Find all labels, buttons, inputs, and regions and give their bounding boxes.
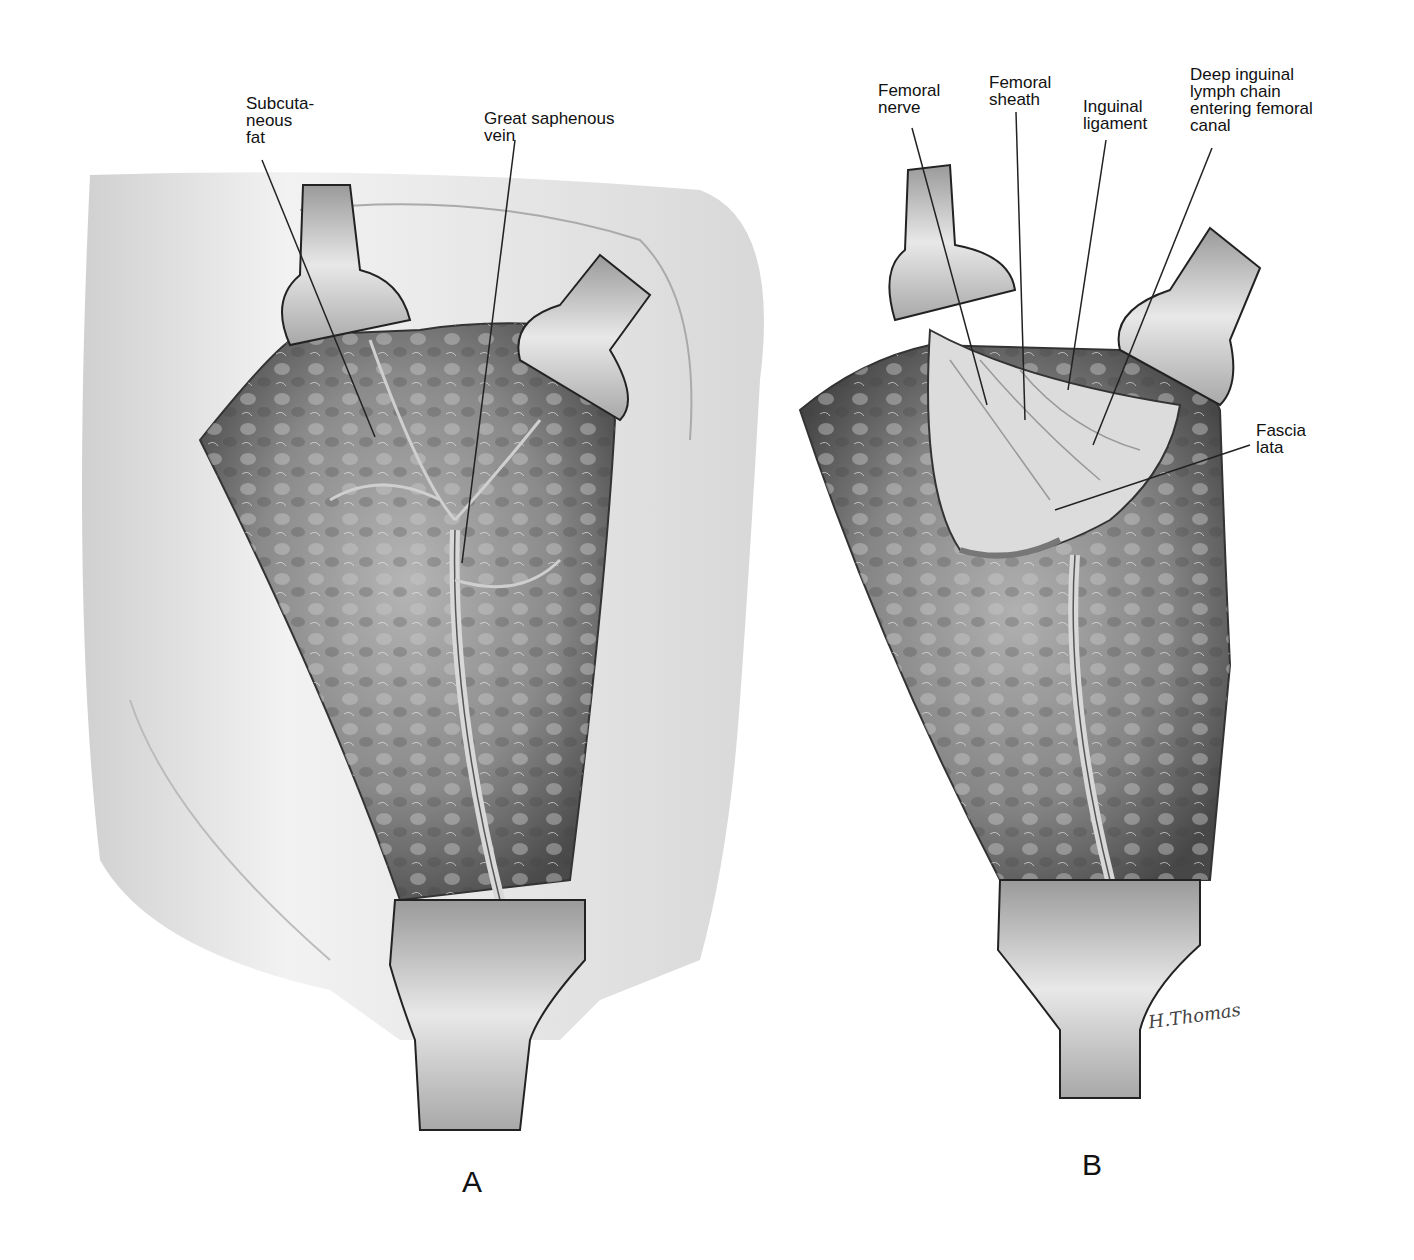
label-inguinal-ligament: Inguinal ligament: [1083, 98, 1147, 132]
label-femoral-nerve: Femoral nerve: [878, 82, 940, 116]
label-femoral-sheath: Femoral sheath: [989, 74, 1051, 108]
panel-letter-b: B: [1082, 1148, 1102, 1182]
label-great-saphenous-vein: Great saphenous vein: [484, 110, 614, 144]
label-deep-inguinal-lymph-chain: Deep inguinal lymph chain entering femor…: [1190, 66, 1313, 134]
illustration-canvas: [0, 0, 1414, 1260]
panel-a-artwork: [82, 140, 764, 1130]
label-subcutaneous-fat: Subcuta- neous fat: [246, 95, 314, 146]
panel-b-artwork: [800, 112, 1260, 1098]
label-fascia-lata: Fascia lata: [1256, 422, 1306, 456]
panel-letter-a: A: [462, 1165, 482, 1199]
